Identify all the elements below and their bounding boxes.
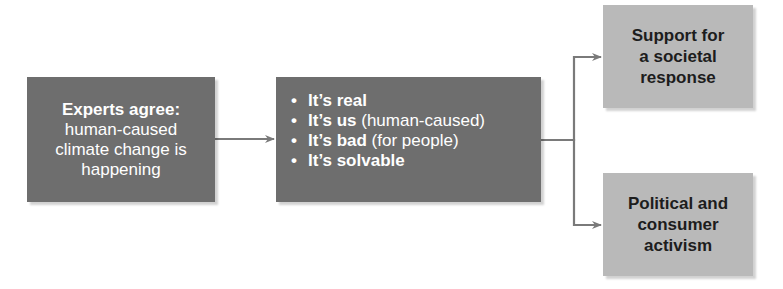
key-facts-box: •It’s real •It’s us (human-caused) •It’s… <box>276 77 541 202</box>
support-line: Support for <box>632 25 725 46</box>
fact-item-us: •It’s us (human-caused) <box>291 111 541 131</box>
experts-line: climate change is <box>55 140 186 160</box>
support-line: response <box>640 67 716 88</box>
experts-agree-box: Experts agree: human-caused climate chan… <box>27 77 215 202</box>
support-line: a societal <box>639 46 717 67</box>
bullet-icon: • <box>291 111 308 131</box>
experts-heading: Experts agree: <box>62 100 180 120</box>
fact-bold: It’s real <box>308 91 367 110</box>
experts-line: happening <box>81 160 160 180</box>
societal-response-box: Support for a societal response <box>603 5 753 108</box>
bullet-icon: • <box>291 91 308 111</box>
activism-line: activism <box>644 235 712 256</box>
fact-bold: It’s bad <box>308 131 367 150</box>
fact-item-bad: •It’s bad (for people) <box>291 131 541 151</box>
arrow-facts-to-activism <box>574 139 601 225</box>
fact-bold: It’s solvable <box>308 151 405 170</box>
fact-note: (for people) <box>367 131 459 150</box>
arrow-facts-to-support <box>574 57 601 141</box>
fact-item-solvable: •It’s solvable <box>291 151 541 171</box>
experts-line: human-caused <box>65 120 177 140</box>
fact-note: (human-caused) <box>357 111 486 130</box>
activism-box: Political and consumer activism <box>603 173 753 276</box>
key-facts-list: •It’s real •It’s us (human-caused) •It’s… <box>291 91 541 171</box>
bullet-icon: • <box>291 131 308 151</box>
bullet-icon: • <box>291 151 308 171</box>
fact-item-real: •It’s real <box>291 91 541 111</box>
activism-line: Political and <box>628 193 728 214</box>
fact-bold: It’s us <box>308 111 357 130</box>
activism-line: consumer <box>637 214 718 235</box>
